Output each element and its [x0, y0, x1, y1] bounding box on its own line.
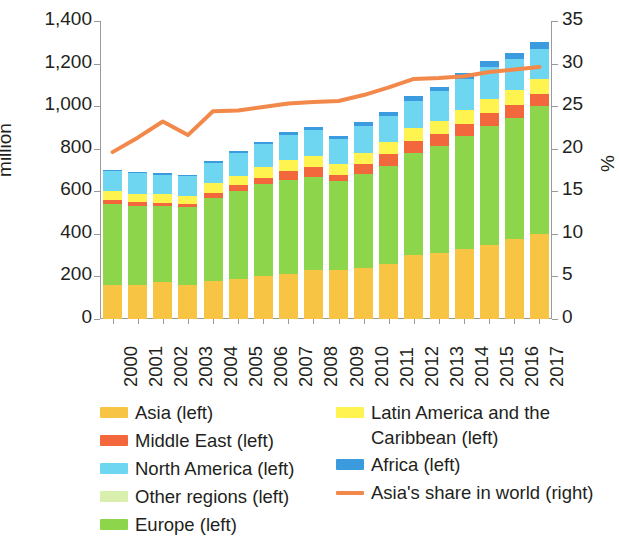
bar-segment: [329, 270, 348, 319]
bar-segment: [404, 141, 423, 153]
y-axis-left-tick: [94, 276, 100, 277]
x-axis-ticklabel-2005: 2005: [245, 346, 267, 387]
bar-segment: [204, 281, 223, 319]
y-axis-right-title: %: [597, 155, 619, 172]
bar-2015: [480, 61, 499, 319]
bar-segment: [229, 279, 248, 319]
y-axis-left-ticklabel: 400: [0, 221, 92, 243]
y-axis-right-tick: [552, 21, 558, 22]
y-axis-right-tick: [552, 64, 558, 65]
y-axis-left-tick: [94, 21, 100, 22]
x-axis-ticklabel-2014: 2014: [471, 346, 493, 387]
bar-segment: [103, 285, 122, 319]
y-axis-left-tick: [94, 149, 100, 150]
bar-2009: [329, 136, 348, 319]
legend-item[interactable]: Other regions (left): [100, 484, 340, 510]
y-axis-left-ticklabel: 200: [0, 263, 92, 285]
bar-segment: [229, 176, 248, 186]
y-axis-left-tick: [94, 191, 100, 192]
bar-segment: [204, 163, 223, 183]
bar-2002: [153, 173, 172, 319]
bar-segment: [304, 167, 323, 177]
bar-segment: [354, 268, 373, 319]
x-axis-tick: [464, 319, 465, 324]
bar-2011: [379, 112, 398, 319]
x-axis-ticklabel-2015: 2015: [496, 346, 518, 387]
legend-swatch-icon: [100, 435, 128, 446]
plot-area: [100, 21, 552, 319]
bar-segment: [153, 194, 172, 203]
legend-item[interactable]: Africa (left): [336, 452, 606, 478]
bar-segment: [329, 139, 348, 165]
bar-segment: [530, 94, 549, 106]
bar-segment: [128, 194, 147, 203]
bar-segment: [128, 206, 147, 285]
legend-swatch-icon: [336, 407, 364, 418]
legend-item[interactable]: Middle East (left): [100, 428, 340, 454]
bar-segment: [455, 79, 474, 111]
bar-segment: [379, 116, 398, 142]
bar-2013: [430, 87, 449, 319]
x-axis-tick: [489, 319, 490, 324]
bar-2003: [178, 175, 197, 319]
bar-segment: [404, 101, 423, 129]
bar-segment: [505, 118, 524, 239]
y-axis-right-ticklabel: 5: [562, 263, 606, 285]
bar-segment: [430, 134, 449, 146]
bar-segment: [229, 191, 248, 278]
legend-item-label: Other regions (left): [135, 484, 289, 509]
legend-item-label: Latin America and the Caribbean (left): [371, 400, 606, 450]
x-axis-tick: [288, 319, 289, 324]
bar-segment: [505, 105, 524, 117]
bar-segment: [254, 144, 273, 167]
y-axis-right-spine: [551, 21, 552, 319]
bar-segment: [153, 175, 172, 195]
y-axis-right-ticklabel: 15: [562, 178, 606, 200]
bar-segment: [329, 181, 348, 270]
legend-item-label: Middle East (left): [135, 428, 274, 453]
bar-segment: [254, 167, 273, 177]
legend-item[interactable]: Asia (left): [100, 400, 340, 426]
x-axis-ticklabel-2001: 2001: [145, 346, 167, 387]
bar-segment: [329, 164, 348, 175]
legend-column-left: Asia (left)Middle East (left)North Ameri…: [100, 400, 340, 540]
bar-segment: [430, 146, 449, 252]
bar-segment: [304, 270, 323, 319]
bar-segment: [204, 183, 223, 192]
x-axis-ticklabel-2009: 2009: [346, 346, 368, 387]
legend-item[interactable]: North America (left): [100, 456, 340, 482]
x-axis-tick: [188, 319, 189, 324]
x-axis-tick: [439, 319, 440, 324]
x-axis-ticklabel-2017: 2017: [546, 346, 568, 387]
legend-swatch-icon: [100, 519, 128, 530]
bar-segment: [304, 130, 323, 156]
bar-2007: [279, 132, 298, 319]
legend-item[interactable]: Asia's share in world (right): [336, 480, 606, 506]
y-axis-right-tick: [552, 276, 558, 277]
legend-item[interactable]: Europe (left): [100, 512, 340, 538]
bar-segment: [480, 99, 499, 113]
x-axis-tick: [364, 319, 365, 324]
x-axis-tick: [213, 319, 214, 324]
bar-2005: [229, 151, 248, 319]
x-axis-tick: [263, 319, 264, 324]
bar-2016: [505, 53, 524, 319]
x-axis-ticklabel-2007: 2007: [295, 346, 317, 387]
legend-swatch-icon: [100, 491, 128, 502]
bar-segment: [379, 154, 398, 166]
y-axis-left-ticklabel: 1,400: [0, 8, 92, 30]
legend-column-right: Latin America and the Caribbean (left)Af…: [336, 400, 606, 508]
x-axis-ticklabel-2008: 2008: [320, 346, 342, 387]
bar-segment: [153, 282, 172, 319]
y-axis-left-spine: [100, 21, 101, 319]
bar-segment: [455, 136, 474, 249]
bar-segment: [379, 264, 398, 319]
bar-2012: [404, 96, 423, 319]
x-axis-ticklabel-2000: 2000: [120, 346, 142, 387]
y-axis-right-tick: [552, 149, 558, 150]
x-axis-ticklabel-2012: 2012: [421, 346, 443, 387]
legend-item-label: Asia (left): [135, 400, 213, 425]
legend-item[interactable]: Latin America and the Caribbean (left): [336, 400, 606, 450]
y-axis-left-tick: [94, 64, 100, 65]
